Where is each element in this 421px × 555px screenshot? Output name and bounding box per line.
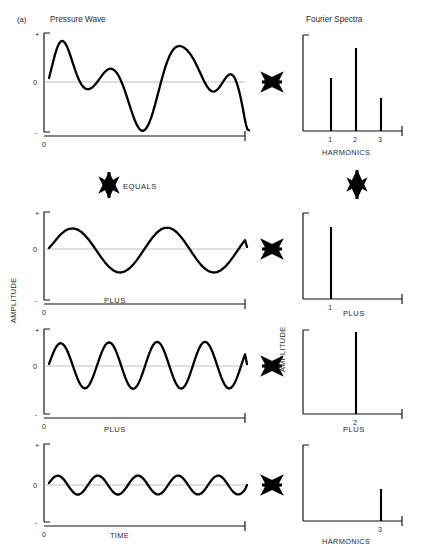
spectra-amplitude-axis-label: AMPLITUDE	[278, 327, 287, 372]
spectrum-tick-1-r2: 1	[328, 303, 332, 312]
left-column-title: Pressure Wave	[50, 15, 106, 24]
x-tick-origin: 0	[42, 140, 46, 149]
spectrum-tick-3-r4: 3	[378, 525, 382, 534]
y-tick-minus: -	[35, 128, 38, 137]
plus-label-row3-right: PLUS	[343, 425, 365, 434]
harmonic-1-spectrum-panel: 1	[303, 213, 402, 312]
y-tick-zero-r4: 0	[33, 481, 37, 490]
harmonic-3-wave-panel: + 0 - 0 TIME	[33, 441, 247, 540]
spectrum-tick-3: 3	[378, 135, 382, 144]
harmonic-2-spectrum-panel: 2	[303, 330, 402, 427]
y-tick-minus-r4: -	[35, 518, 38, 527]
y-tick-zero-r2: 0	[33, 245, 37, 254]
harmonic-1-curve	[49, 228, 247, 273]
time-axis-label: TIME	[110, 531, 129, 540]
plus-label-row2-left: PLUS	[104, 296, 126, 305]
y-tick-plus-r4: +	[35, 441, 39, 450]
y-tick-zero: 0	[33, 78, 37, 87]
y-tick-plus: +	[35, 30, 39, 39]
harmonic-3-spectrum-panel: 3 HARMONICS	[303, 445, 402, 546]
composite-spectrum-panel: 1 2 3 HARMONICS	[303, 35, 402, 157]
x-tick-origin-r3: 0	[42, 422, 46, 431]
plus-label-row3-left: PLUS	[104, 425, 126, 434]
harmonics-axis-label-top: HARMONICS	[322, 148, 370, 157]
equals-operator-group: EQUALS	[109, 172, 157, 198]
composite-wave-panel: + 0 - 0	[33, 30, 249, 149]
right-column-title: Fourier Spectra	[306, 15, 363, 24]
spectrum-tick-1: 1	[328, 135, 332, 144]
y-tick-plus-r3: +	[35, 326, 39, 335]
fourier-decomposition-figure: (a) Pressure Wave Fourier Spectra + 0 - …	[0, 0, 421, 555]
harmonic-1-wave-panel: + 0 - 0	[33, 209, 247, 317]
spectrum-tick-2: 2	[353, 135, 357, 144]
harmonics-axis-label-bottom: HARMONICS	[322, 537, 370, 546]
y-tick-zero-r3: 0	[33, 362, 37, 371]
equals-label: EQUALS	[123, 182, 157, 191]
y-tick-plus-r2: +	[35, 209, 39, 218]
x-tick-origin-r4: 0	[42, 530, 46, 539]
y-tick-minus-r2: -	[35, 296, 38, 305]
composite-waveform-curve	[49, 41, 249, 131]
plus-label-row2-right: PLUS	[343, 309, 365, 318]
panel-letter: (a)	[17, 15, 27, 24]
harmonic-2-curve	[49, 342, 247, 389]
harmonic-2-wave-panel: + 0 - 0	[33, 326, 247, 431]
y-tick-minus-r3: -	[35, 410, 38, 419]
left-amplitude-axis-label: AMPLITUDE	[9, 278, 18, 323]
x-tick-origin-r2: 0	[42, 308, 46, 317]
